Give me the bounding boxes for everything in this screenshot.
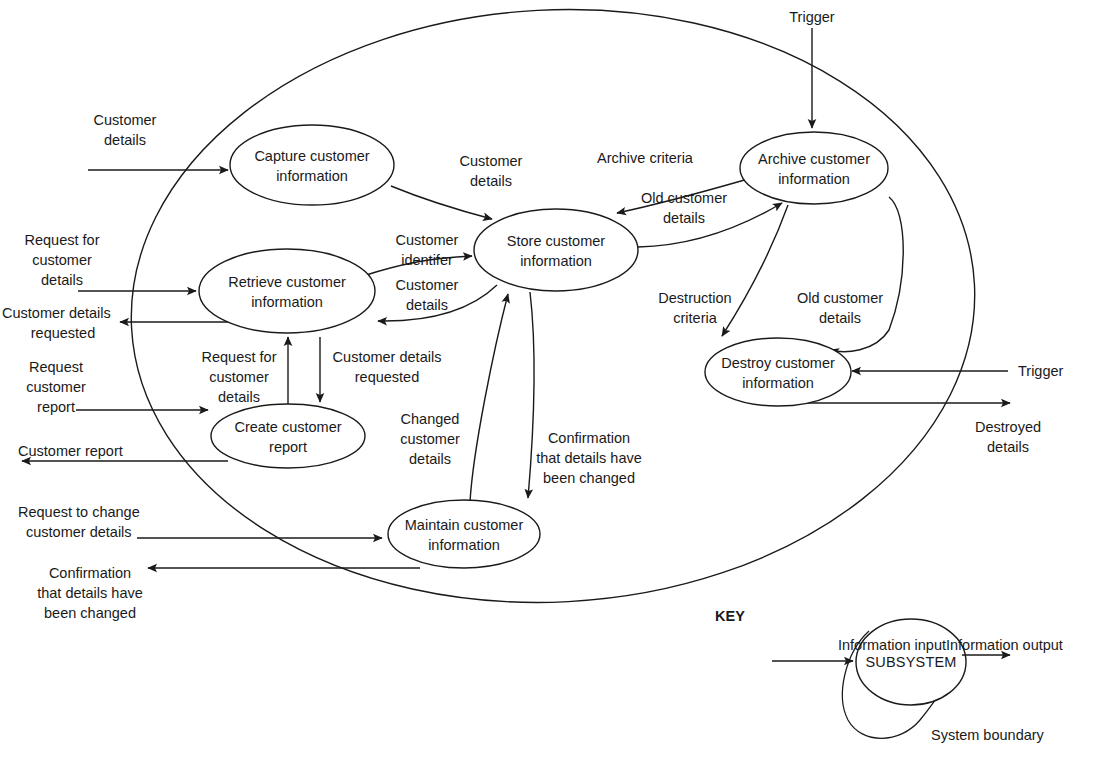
label-old-customer-details-destroy-line2: details (819, 310, 861, 326)
label-request-for-customer-details-int-line2: customer (209, 369, 269, 385)
flow-old-customer-details-store (638, 203, 782, 247)
label-destruction-criteria-line1: Destruction (658, 290, 731, 306)
label-request-customer-report-line2: customer (26, 379, 86, 395)
process-destroy-label-line1: Destroy customer (721, 355, 835, 371)
label-customer-details-requested-out-line1: Customer details (2, 305, 111, 321)
key-subsystem-label: SUBSYSTEM (865, 654, 956, 670)
label-changed-customer-details-line1: Changed (401, 411, 460, 427)
label-destroyed-details-line1: Destroyed (975, 419, 1041, 435)
process-capture-label-line2: information (276, 168, 348, 184)
label-capture-to-store-line2: details (470, 173, 512, 189)
process-maintain-label-line2: information (428, 537, 500, 553)
label-destroyed-details-line2: details (987, 439, 1029, 455)
flow-confirmation-internal (528, 292, 534, 498)
key-information-output-label: Information output (946, 637, 1063, 653)
process-archive-label-line2: information (778, 171, 850, 187)
label-customer-report-out: Customer report (18, 443, 123, 459)
label-request-to-change-line1: Request to change (18, 504, 140, 520)
label-changed-customer-details-line2: customer (400, 431, 460, 447)
process-store-customer-information[interactable] (474, 209, 638, 291)
label-customer-details-requested-int-line1: Customer details (333, 349, 442, 365)
flow-changed-customer-details (470, 294, 508, 502)
label-customer-details-in-line1: Customer (94, 112, 157, 128)
label-customer-details-in-line2: details (104, 132, 146, 148)
key-title: KEY (715, 608, 745, 624)
label-confirmation-out-line3: been changed (44, 605, 136, 621)
label-request-for-customer-details-ext-line2: customer (32, 252, 92, 268)
key-legend: KEY SUBSYSTEM Information input Informat… (715, 608, 1063, 743)
key-system-boundary-label: System boundary (931, 727, 1045, 743)
process-maintain-label-line1: Maintain customer (405, 517, 524, 533)
process-archive-customer-information[interactable] (740, 132, 888, 204)
process-store-label-line2: information (520, 253, 592, 269)
label-request-for-customer-details-ext-line1: Request for (25, 232, 100, 248)
label-customer-details-requested-out-line2: requested (31, 325, 96, 341)
label-old-customer-details-store-line2: details (663, 210, 705, 226)
process-create-label-line1: Create customer (234, 419, 341, 435)
label-customer-identifer-line2: identifer (401, 252, 453, 268)
label-old-customer-details-store-line1: Old customer (641, 190, 727, 206)
label-request-for-customer-details-int-line1: Request for (202, 349, 277, 365)
flow-capture-to-store (391, 186, 492, 219)
label-customer-identifer-line1: Customer (396, 232, 459, 248)
label-trigger-destroy: Trigger (1018, 363, 1064, 379)
label-confirmation-internal-line1: Confirmation (548, 430, 630, 446)
process-maintain-customer-information[interactable] (388, 500, 540, 568)
process-retrieve-customer-information[interactable] (199, 249, 375, 333)
dfd-svg: Capture customer information Retrieve cu… (0, 0, 1107, 777)
process-create-label-line2: report (269, 439, 307, 455)
label-store-to-retrieve-line2: details (406, 297, 448, 313)
label-changed-customer-details-line3: details (409, 451, 451, 467)
flow-destruction-criteria (722, 205, 788, 336)
label-trigger-archive: Trigger (789, 9, 835, 25)
label-confirmation-out-line2: that details have (37, 585, 143, 601)
label-customer-details-requested-int-line2: requested (355, 369, 420, 385)
label-confirmation-internal-line2: that details have (536, 450, 642, 466)
process-capture-customer-information[interactable] (230, 125, 394, 205)
process-create-customer-report[interactable] (211, 404, 365, 468)
key-information-input-label: Information input (838, 637, 946, 653)
process-retrieve-label-line1: Retrieve customer (228, 274, 346, 290)
label-confirmation-internal-line3: been changed (543, 470, 635, 486)
label-archive-criteria: Archive criteria (597, 150, 694, 166)
label-destruction-criteria-line2: criteria (673, 310, 717, 326)
process-store-label-line1: Store customer (507, 233, 605, 249)
label-request-customer-report-line3: report (37, 399, 75, 415)
flow-old-customer-details-destroy (830, 197, 903, 352)
label-store-to-retrieve-line1: Customer (396, 277, 459, 293)
label-request-to-change-line2: customer details (26, 524, 132, 540)
label-request-for-customer-details-ext-line3: details (41, 272, 83, 288)
label-confirmation-out-line1: Confirmation (49, 565, 131, 581)
label-old-customer-details-destroy-line1: Old customer (797, 290, 883, 306)
process-archive-label-line1: Archive customer (758, 151, 870, 167)
process-capture-label-line1: Capture customer (254, 148, 369, 164)
label-request-for-customer-details-int-line3: details (218, 389, 260, 405)
process-destroy-label-line2: information (742, 375, 814, 391)
process-destroy-customer-information[interactable] (705, 338, 851, 406)
diagram-canvas: Capture customer information Retrieve cu… (0, 0, 1107, 777)
label-request-customer-report-line1: Request (29, 359, 83, 375)
label-capture-to-store-line1: Customer (460, 153, 523, 169)
process-retrieve-label-line2: information (251, 294, 323, 310)
